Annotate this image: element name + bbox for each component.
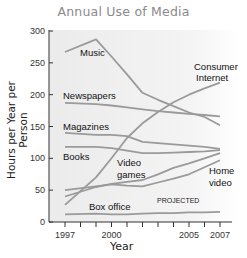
x-axis-label: Year bbox=[110, 240, 133, 253]
svg-text:250: 250 bbox=[30, 58, 45, 68]
svg-text:50: 50 bbox=[35, 185, 45, 195]
label-music: Music bbox=[80, 47, 105, 58]
label-box-office: Box office bbox=[89, 201, 131, 212]
svg-text:150: 150 bbox=[30, 122, 45, 132]
label-video-games-1: Video bbox=[117, 157, 141, 168]
svg-text:2000: 2000 bbox=[101, 230, 121, 240]
svg-text:0: 0 bbox=[40, 217, 45, 227]
label-video-games-2: games bbox=[117, 169, 146, 180]
y-axis-label: Hours per Year per Person bbox=[5, 75, 29, 185]
svg-text:2005: 2005 bbox=[179, 230, 199, 240]
label-home-video-2: video bbox=[209, 177, 232, 188]
label-books: Books bbox=[63, 151, 90, 162]
projected-annotation: PROJECTED bbox=[157, 197, 199, 204]
x-axis-ticks: 1997200020052007 bbox=[55, 222, 230, 240]
line-chart: 050100150200250300 1997200020052007 Musi… bbox=[0, 0, 247, 258]
label-magazines: Magazines bbox=[63, 121, 109, 132]
svg-text:200: 200 bbox=[30, 90, 45, 100]
svg-text:300: 300 bbox=[30, 26, 45, 36]
label-consumer-internet-1: Consumer bbox=[194, 61, 238, 72]
label-home-video-1: Home bbox=[209, 165, 234, 176]
label-consumer-internet-2: Internet bbox=[196, 72, 229, 83]
svg-text:1997: 1997 bbox=[55, 230, 75, 240]
svg-text:100: 100 bbox=[30, 153, 45, 163]
label-newspapers: Newspapers bbox=[63, 90, 116, 101]
svg-text:2007: 2007 bbox=[210, 230, 230, 240]
